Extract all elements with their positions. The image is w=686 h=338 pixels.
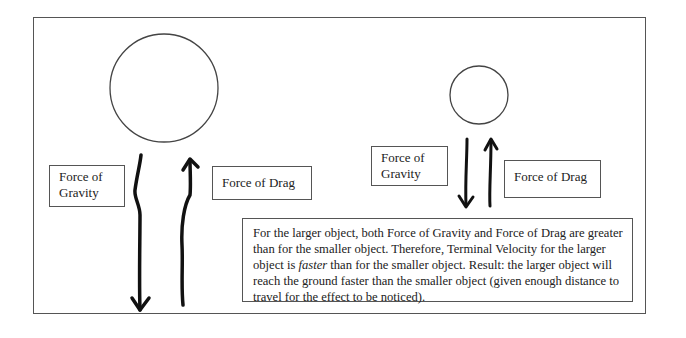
large-drag-label: Force of Drag: [212, 166, 312, 200]
large-gravity-arrow-icon: [132, 155, 149, 310]
large-gravity-label: Force of Gravity: [49, 165, 125, 207]
small-gravity-label-line1: Force of: [381, 150, 447, 166]
small-drag-label: Force of Drag: [504, 160, 601, 198]
explanation-emphasis: faster: [298, 258, 327, 272]
large-object-circle: [110, 34, 218, 142]
large-drag-label-text: Force of Drag: [222, 175, 311, 191]
small-drag-label-text: Force of Drag: [514, 169, 600, 185]
large-gravity-label-line1: Force of: [59, 169, 124, 185]
small-gravity-label: Force of Gravity: [371, 146, 448, 186]
large-gravity-label-line2: Gravity: [59, 185, 124, 201]
small-object-circle: [450, 66, 508, 124]
small-drag-arrow-icon: [485, 139, 497, 206]
small-gravity-arrow-icon: [459, 139, 473, 207]
large-drag-arrow-icon: [182, 159, 198, 305]
explanation-box: For the larger object, both Force of Gra…: [242, 218, 633, 302]
small-gravity-label-line2: Gravity: [381, 166, 447, 182]
